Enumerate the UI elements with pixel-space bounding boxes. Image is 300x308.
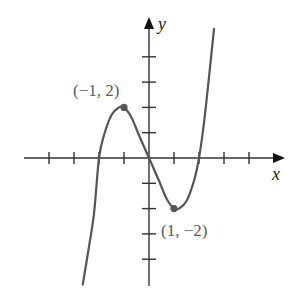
y-axis-arrow-icon — [144, 17, 154, 29]
x-axis-arrow-icon — [273, 153, 285, 163]
cubic-graph: y x (−1, 2) (1, −2) — [0, 0, 300, 308]
axes — [24, 17, 285, 286]
y-axis-label: y — [156, 14, 166, 34]
critical-point-marker — [170, 205, 177, 212]
critical-point-marker — [120, 104, 127, 111]
local-min-label: (1, −2) — [161, 221, 207, 240]
local-max-label: (−1, 2) — [73, 81, 119, 100]
x-axis-label: x — [271, 164, 280, 184]
